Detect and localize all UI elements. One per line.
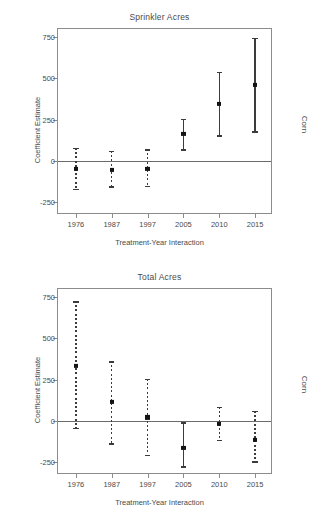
x-axis-tick-label: 1976: [68, 220, 85, 229]
y-axis-tick-label: 0: [51, 156, 55, 165]
plot-frame-top: 7505002500-250197619871997200520102015: [57, 28, 272, 214]
error-bar-cap-lower: [73, 428, 78, 429]
data-point: [110, 400, 114, 404]
panel-sprinkler-acres: Sprinkler Acres Coefficient Estimate 750…: [0, 0, 319, 259]
x-axis-tick: [183, 473, 184, 478]
x-axis-tick-label: 1987: [103, 480, 120, 489]
error-bar-cap-upper: [109, 361, 114, 362]
error-bar-cap-upper: [145, 379, 150, 380]
x-axis-title-bottom: Treatment-Year Interaction: [0, 498, 319, 507]
y-axis-tick-label: 750: [42, 293, 55, 302]
x-axis-tick: [148, 473, 149, 478]
data-point: [181, 131, 185, 135]
error-bar-cap-lower: [252, 461, 257, 462]
y-axis-tick-label: 750: [42, 33, 55, 42]
data-point: [74, 363, 78, 367]
x-axis-tick: [255, 473, 256, 478]
x-axis-tick: [219, 213, 220, 218]
y-axis-tick-label: 0: [51, 416, 55, 425]
x-axis-tick: [183, 213, 184, 218]
zero-reference-line: [58, 421, 271, 422]
y-axis-tick-label: 500: [42, 334, 55, 343]
x-axis-tick: [148, 213, 149, 218]
x-axis-title-top: Treatment-Year Interaction: [0, 238, 319, 247]
x-axis-tick-label: 2005: [175, 480, 192, 489]
error-bar-cap-lower: [181, 466, 186, 467]
data-point: [217, 422, 221, 426]
x-axis-tick: [219, 473, 220, 478]
error-bar-cap-lower: [109, 443, 114, 444]
error-bar-cap-upper: [217, 407, 222, 408]
data-point: [110, 168, 114, 172]
x-axis-tick-label: 2015: [247, 220, 264, 229]
error-bar-cap-upper: [73, 301, 78, 302]
error-bar-cap-upper: [109, 151, 114, 152]
error-bar-cap-lower: [73, 189, 78, 190]
x-axis-tick-label: 1976: [68, 480, 85, 489]
chart-title-bottom: Total Acres: [0, 272, 319, 282]
panel-total-acres: Total Acres Coefficient Estimate 7505002…: [0, 260, 319, 519]
data-point: [74, 167, 78, 171]
error-bar-cap-upper: [73, 148, 78, 149]
error-bar-cap-lower: [145, 455, 150, 456]
plot-frame-bottom: 7505002500-250197619871997200520102015: [57, 288, 272, 474]
data-point: [145, 415, 149, 419]
x-axis-tick-label: 1997: [139, 220, 156, 229]
y-axis-tick-label: 250: [42, 115, 55, 124]
data-point: [145, 167, 149, 171]
error-bar-cap-lower: [109, 186, 114, 187]
x-axis-tick-label: 2005: [175, 220, 192, 229]
y-axis-tick-label: -250: [40, 457, 55, 466]
strip-label-bottom: Corn: [300, 376, 309, 393]
zero-reference-line: [58, 161, 271, 162]
y-axis-title-top: Coefficient Estimate: [33, 96, 42, 163]
error-bar-cap-upper: [252, 411, 257, 412]
error-bar-cap-lower: [252, 131, 257, 132]
error-bar-cap-upper: [181, 422, 186, 423]
error-bar-cap-upper: [145, 149, 150, 150]
data-point: [217, 102, 221, 106]
x-axis-tick-label: 2010: [211, 220, 228, 229]
data-point: [253, 438, 257, 442]
plot-area-top: 7505002500-250197619871997200520102015: [58, 29, 271, 213]
error-bar-cap-upper: [252, 38, 257, 39]
y-axis-title-bottom: Coefficient Estimate: [33, 356, 42, 423]
y-axis-tick-label: -250: [40, 197, 55, 206]
error-bar-cap-lower: [181, 149, 186, 150]
x-axis-tick-label: 2010: [211, 480, 228, 489]
x-axis-tick: [255, 213, 256, 218]
strip-label-top: Corn: [300, 116, 309, 133]
plot-area-bottom: 7505002500-250197619871997200520102015: [58, 289, 271, 473]
x-axis-tick: [112, 213, 113, 218]
y-axis-tick-label: 250: [42, 375, 55, 384]
y-axis-tick-label: 500: [42, 74, 55, 83]
x-axis-tick: [76, 473, 77, 478]
x-axis-tick-label: 1997: [139, 480, 156, 489]
error-bar-cap-upper: [217, 72, 222, 73]
data-point: [181, 446, 185, 450]
error-bar-cap-lower: [217, 135, 222, 136]
error-bar-cap-lower: [145, 186, 150, 187]
x-axis-tick-label: 1987: [103, 220, 120, 229]
x-axis-tick-label: 2015: [247, 480, 264, 489]
data-point: [253, 83, 257, 87]
error-bar-cap-lower: [217, 440, 222, 441]
error-bar-cap-upper: [181, 119, 186, 120]
x-axis-tick: [76, 213, 77, 218]
chart-title-top: Sprinkler Acres: [0, 12, 319, 22]
x-axis-tick: [112, 473, 113, 478]
